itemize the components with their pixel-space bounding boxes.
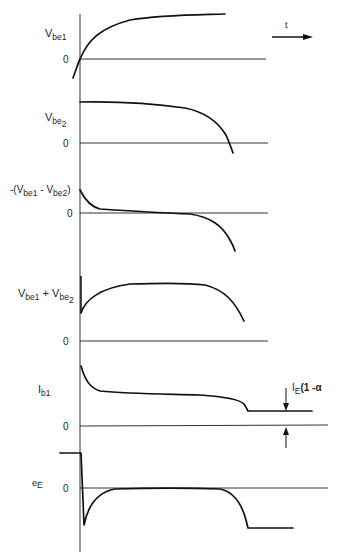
arrow-right-icon (303, 34, 313, 40)
ib1-zero-label: 0 (63, 421, 69, 432)
ee-label: eE (32, 478, 43, 490)
vbe-difference-label: -(Vbe1 - Vbe2) (10, 184, 71, 198)
arrow-up-icon (283, 427, 289, 435)
time-label: t (285, 20, 288, 30)
ie-annotation-label: IE(1 -α (292, 382, 322, 396)
arrow-down-icon (283, 403, 289, 411)
vbe1-label: Vbe1 (45, 27, 67, 42)
panel-vbe2: Vbe2 0 (45, 102, 268, 153)
panel-vbe-sum: Vbe1 + Vbe2 0 (18, 276, 268, 347)
vbe-difference-curve (80, 190, 235, 251)
vbe2-curve (80, 102, 233, 153)
vbe-sum-label: Vbe1 + Vbe2 (18, 287, 74, 305)
time-arrow: t (272, 20, 313, 40)
ib1-curve (81, 366, 312, 411)
panel-ib1: Ib1 0 IE(1 -α (38, 366, 328, 448)
ie-annotation: IE(1 -α (283, 382, 322, 448)
vbe1-curve (73, 14, 225, 78)
vbe1-zero-label: 0 (63, 54, 69, 65)
waveform-diagram: t Vbe1 0 Vbe2 0 -(Vbe1 - Vbe2) 0 Vbe1 + … (0, 0, 338, 556)
vbe2-label: Vbe2 (45, 111, 67, 129)
panel-vbe-difference: -(Vbe1 - Vbe2) 0 (10, 184, 268, 251)
vbe-difference-zero-label: 0 (67, 208, 73, 219)
panel-vbe1: Vbe1 0 (45, 14, 266, 78)
ee-zero-label: 0 (63, 483, 69, 494)
ib1-label: Ib1 (38, 383, 51, 398)
vbe2-zero-label: 0 (63, 138, 69, 149)
ee-curve (60, 453, 293, 528)
vbe-sum-zero-label: 0 (63, 336, 69, 347)
ib1-zero-line (80, 425, 328, 426)
panel-ee: eE 0 (32, 453, 328, 528)
vbe-sum-curve (81, 283, 244, 321)
